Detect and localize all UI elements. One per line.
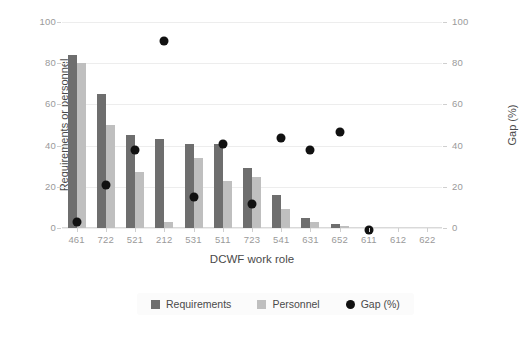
x-axis-tick-mark (164, 228, 165, 232)
legend-square-icon (257, 300, 266, 309)
gap-data-point (189, 193, 198, 202)
legend-item-label: Requirements (166, 298, 231, 310)
x-axis-tick-mark (340, 228, 341, 232)
legend-item[interactable]: Gap (%) (346, 298, 400, 310)
x-axis-tick-label: 541 (267, 234, 296, 245)
x-axis-tick-label: 723 (237, 234, 266, 245)
gap-data-point (335, 127, 344, 136)
bar-personnel (310, 222, 319, 228)
bar-personnel (164, 222, 173, 228)
gap-data-point (72, 218, 81, 227)
x-axis-tick-label: 511 (208, 234, 237, 245)
y-axis-left-tick-mark (57, 228, 61, 229)
legend-item-label: Gap (%) (361, 298, 400, 310)
gap-data-point (248, 199, 257, 208)
legend-circle-icon (346, 300, 355, 309)
y-axis-left-tick-mark (57, 22, 61, 23)
y-axis-left-tick-mark (57, 104, 61, 105)
y-axis-right-tick-mark (443, 146, 447, 147)
legend-item-label: Personnel (272, 298, 319, 310)
bar-personnel (223, 181, 232, 228)
y-axis-left-tick-label: 0 (16, 222, 56, 233)
y-axis-left-tick-mark (57, 63, 61, 64)
y-axis-right-tick-mark (443, 104, 447, 105)
x-axis-tick-label: 461 (62, 234, 91, 245)
y-axis-right-title: Gap (%) (506, 105, 518, 146)
bar-requirements (155, 139, 164, 228)
bar-personnel (106, 125, 115, 228)
x-axis-tick-mark (310, 228, 311, 232)
x-axis-tick-label: 652 (325, 234, 354, 245)
bar-requirements (185, 144, 194, 228)
gap-data-point (160, 36, 169, 45)
legend-item[interactable]: Personnel (257, 298, 319, 310)
bar-requirements (331, 224, 340, 228)
y-axis-left-tick-label: 80 (16, 57, 56, 68)
y-axis-right-title-wrap: Gap (%) (494, 22, 516, 228)
bar-requirements (301, 218, 310, 228)
x-axis-tick-mark (106, 228, 107, 232)
x-axis-tick-mark (398, 228, 399, 232)
x-axis-tick-label: 722 (91, 234, 120, 245)
chart-legend: RequirementsPersonnelGap (%) (137, 293, 414, 315)
gap-data-point (131, 146, 140, 155)
gap-data-point (218, 139, 227, 148)
y-axis-right-tick-mark (443, 228, 447, 229)
bar-requirements (243, 168, 252, 228)
x-axis-tick-mark (77, 228, 78, 232)
x-axis-tick-mark (194, 228, 195, 232)
x-axis-tick-mark (281, 228, 282, 232)
bar-personnel (77, 63, 86, 228)
x-axis-tick-label: 531 (179, 234, 208, 245)
bar-personnel (340, 226, 349, 228)
y-axis-right-tick-mark (443, 22, 447, 23)
bar-personnel (281, 209, 290, 228)
gap-data-point (101, 181, 110, 190)
plot-area (62, 22, 442, 228)
x-axis-tick-mark (369, 228, 370, 232)
bar-personnel (135, 172, 144, 228)
bar-requirements (272, 195, 281, 228)
bar-requirements (97, 94, 106, 228)
bar-requirements (68, 55, 77, 228)
gap-data-point (306, 146, 315, 155)
y-axis-right-tick-label: 20 (452, 181, 492, 192)
gridline (62, 104, 442, 105)
x-axis-tick-label: 622 (413, 234, 442, 245)
x-axis-tick-label: 212 (150, 234, 179, 245)
y-axis-right-tick-label: 0 (452, 222, 492, 233)
gridline (62, 63, 442, 64)
y-axis-left-tick-label: 40 (16, 140, 56, 151)
y-axis-left-tick-mark (57, 187, 61, 188)
y-axis-right-tick-mark (443, 63, 447, 64)
x-axis-tick-mark (427, 228, 428, 232)
x-axis-tick-mark (135, 228, 136, 232)
gap-data-point (277, 133, 286, 142)
x-axis-tick-mark (252, 228, 253, 232)
gridline (62, 146, 442, 147)
x-axis-tick-label: 611 (354, 234, 383, 245)
x-axis-tick-label: 612 (384, 234, 413, 245)
x-axis-tick-label: 521 (120, 234, 149, 245)
y-axis-right-tick-label: 80 (452, 57, 492, 68)
y-axis-right-tick-label: 40 (452, 140, 492, 151)
y-axis-right-tick-label: 60 (452, 98, 492, 109)
x-axis-tick-label: 631 (296, 234, 325, 245)
x-axis-tick-mark (223, 228, 224, 232)
y-axis-left-tick-label: 20 (16, 181, 56, 192)
legend-item[interactable]: Requirements (151, 298, 231, 310)
y-axis-left-tick-label: 60 (16, 98, 56, 109)
y-axis-right-tick-mark (443, 187, 447, 188)
y-axis-left-tick-mark (57, 146, 61, 147)
legend-square-icon (151, 300, 160, 309)
y-axis-right-tick-label: 100 (452, 16, 492, 27)
y-axis-left-title-wrap: Requirements or personnel (0, 22, 22, 228)
bar-requirements (214, 144, 223, 228)
gridline (62, 22, 442, 23)
x-axis-title: DCWF work role (62, 253, 442, 265)
chart-container: Requirements or personnel Gap (%) DCWF w… (0, 0, 528, 338)
y-axis-left-tick-label: 100 (16, 16, 56, 27)
